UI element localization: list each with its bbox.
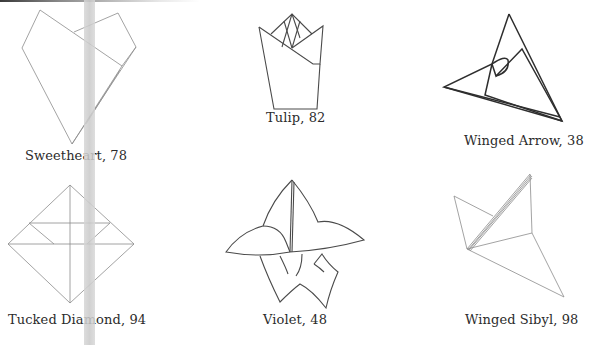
tulip-diagram-icon: [220, 0, 360, 120]
figure-tucked-diamond: [0, 180, 200, 310]
caption-violet: Violet, 48: [263, 312, 327, 327]
caption-sweetheart: Sweetheart, 78: [25, 148, 127, 163]
sweetheart-diagram-icon: [0, 0, 200, 140]
caption-winged-sibyl: Winged Sibyl, 98: [465, 312, 578, 327]
winged-sibyl-diagram-icon: [420, 170, 594, 310]
page-binding-gutter: [84, 0, 95, 345]
figure-tulip: [220, 0, 360, 120]
caption-tucked-diamond: Tucked Diamond, 94: [8, 312, 146, 327]
tucked-diamond-diagram-icon: [0, 180, 200, 310]
caption-tulip: Tulip, 82: [266, 110, 325, 125]
winged-arrow-diagram-icon: [430, 0, 594, 130]
violet-diagram-icon: [210, 180, 380, 310]
figure-winged-arrow: [430, 0, 594, 130]
figure-sweetheart: [0, 0, 200, 140]
caption-winged-arrow: Winged Arrow, 38: [464, 133, 584, 148]
figure-winged-sibyl: [420, 170, 594, 310]
figure-violet: [210, 180, 380, 310]
